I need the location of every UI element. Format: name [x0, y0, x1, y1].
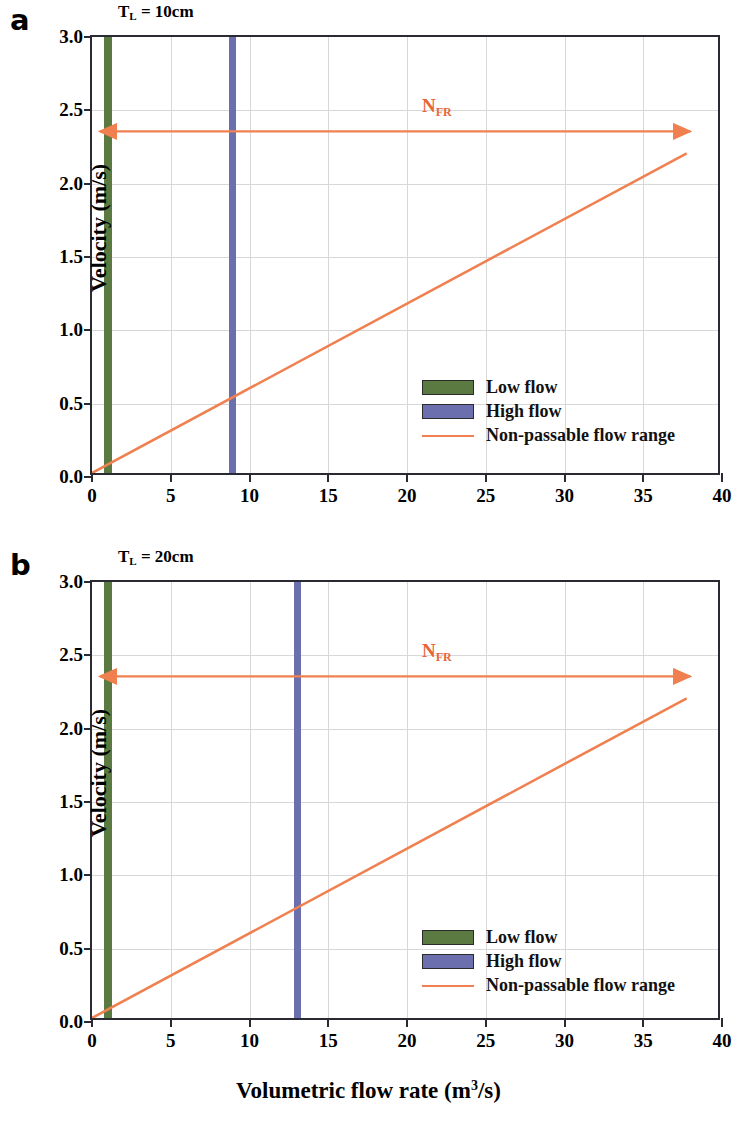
x-tick-label: 30 — [555, 485, 574, 507]
x-tick-label: 20 — [398, 485, 417, 507]
legend-b: Low flow High flow Non-passable flow ran… — [422, 927, 675, 996]
x-tick-label: 15 — [319, 1030, 338, 1052]
legend-swatch-high-flow — [422, 404, 474, 419]
legend-swatch-low-flow — [422, 930, 474, 945]
nfr-subscript: FR — [436, 105, 452, 119]
y-tick-label: 2.5 — [59, 644, 83, 666]
nfr-subscript: FR — [436, 650, 452, 664]
x-tick-label: 0 — [87, 1030, 97, 1052]
condition-label-b: TL = 20cm — [118, 547, 194, 567]
x-tick-label: 15 — [319, 485, 338, 507]
legend-swatch-low-flow — [422, 380, 474, 395]
y-tick-label: 3.0 — [59, 571, 83, 593]
legend-line-non-passable — [422, 435, 474, 437]
plot-area-b: NFR 3.0 2.5 2.0 1.5 1.0 0.5 0.0 — [90, 580, 720, 1020]
figure-root: a TL = 10cm — [0, 0, 737, 1124]
x-tick-label: 35 — [634, 1030, 653, 1052]
x-axis-label-tail: /s) — [478, 1078, 501, 1103]
legend-label: Low flow — [486, 377, 558, 398]
x-tick-label: 25 — [476, 485, 495, 507]
x-tick-label: 0 — [87, 485, 97, 507]
legend-label: High flow — [486, 401, 562, 422]
condition-suffix: = 10cm — [137, 2, 194, 21]
x-tick-label: 20 — [398, 1030, 417, 1052]
nfr-annotation-a: NFR — [422, 95, 452, 117]
y-tick-label: 2.0 — [59, 173, 83, 195]
x-axis-label-exponent: 3 — [471, 1078, 478, 1093]
legend-label: Low flow — [486, 927, 558, 948]
plot-area-a: NFR 3.0 2.5 2.0 1.5 1.0 0.5 0.0 — [90, 35, 720, 475]
x-axis-label: Volumetric flow rate (m3/s) — [0, 1078, 737, 1104]
y-tick-label: 2.5 — [59, 99, 83, 121]
x-tick-label: 40 — [713, 1030, 732, 1052]
legend-item-low-flow: Low flow — [422, 377, 675, 398]
x-tick-label: 5 — [166, 1030, 176, 1052]
legend-swatch-high-flow — [422, 954, 474, 969]
nfr-symbol: N — [422, 640, 436, 661]
condition-subscript: L — [129, 555, 136, 567]
y-tick-label: 0.5 — [59, 393, 83, 415]
y-tick-label: 0.0 — [59, 466, 83, 488]
y-axis-label-a: Velocity (m/s) — [86, 164, 112, 292]
x-tick-label: 35 — [634, 485, 653, 507]
legend-a: Low flow High flow Non-passable flow ran… — [422, 377, 675, 446]
condition-suffix: = 20cm — [137, 547, 194, 566]
panel-b: b TL = 20cm — [0, 545, 737, 1060]
legend-item-non-passable: Non-passable flow range — [422, 425, 675, 446]
legend-item-non-passable: Non-passable flow range — [422, 975, 675, 996]
y-axis-label-b: Velocity (m/s) — [86, 709, 112, 837]
legend-label: High flow — [486, 951, 562, 972]
legend-item-high-flow: High flow — [422, 401, 675, 422]
panel-letter-b: b — [10, 551, 31, 580]
x-tick-label: 10 — [240, 1030, 259, 1052]
x-tick-label: 25 — [476, 1030, 495, 1052]
y-tick-label: 1.0 — [59, 864, 83, 886]
legend-item-high-flow: High flow — [422, 951, 675, 972]
legend-label: Non-passable flow range — [486, 975, 675, 996]
x-tick-label: 40 — [713, 485, 732, 507]
x-tick-label: 30 — [555, 1030, 574, 1052]
y-tick-label: 1.5 — [59, 791, 83, 813]
y-tick-label: 2.0 — [59, 718, 83, 740]
legend-item-low-flow: Low flow — [422, 927, 675, 948]
x-tick-label: 10 — [240, 485, 259, 507]
nfr-symbol: N — [422, 95, 436, 116]
y-tick-label: 0.0 — [59, 1011, 83, 1033]
x-tick-label: 5 — [166, 485, 176, 507]
panel-a: a TL = 10cm — [0, 0, 737, 545]
condition-label-a: TL = 10cm — [118, 2, 194, 22]
condition-prefix: T — [118, 2, 129, 21]
y-tick-label: 1.0 — [59, 319, 83, 341]
condition-prefix: T — [118, 547, 129, 566]
condition-subscript: L — [129, 10, 136, 22]
nfr-annotation-b: NFR — [422, 640, 452, 662]
x-axis-label-text: Volumetric flow rate (m — [236, 1078, 471, 1103]
legend-label: Non-passable flow range — [486, 425, 675, 446]
y-tick-label: 0.5 — [59, 938, 83, 960]
panel-letter-a: a — [10, 6, 30, 35]
y-tick-label: 1.5 — [59, 246, 83, 268]
legend-line-non-passable — [422, 985, 474, 987]
y-tick-label: 3.0 — [59, 26, 83, 48]
